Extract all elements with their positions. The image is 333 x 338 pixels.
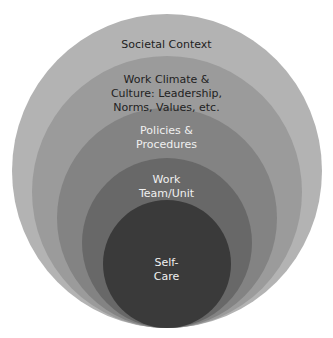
label-policies-procedures: Policies & Procedures (0, 124, 333, 152)
label-societal-context: Societal Context (0, 38, 333, 52)
label-work-team-unit: Work Team/Unit (0, 173, 333, 201)
label-self-care: Self- Care (0, 256, 333, 284)
label-work-climate-culture: Work Climate & Culture: Leadership, Norm… (0, 73, 333, 115)
